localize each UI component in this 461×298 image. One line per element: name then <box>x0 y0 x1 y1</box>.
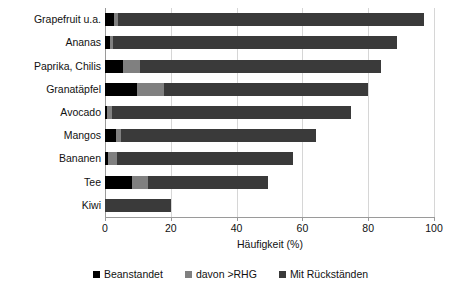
legend-label: Mit Rückständen <box>290 268 368 280</box>
y-axis-label: Mangos <box>1 129 101 142</box>
y-axis-label: Grapefruit u.a. <box>1 13 101 26</box>
x-axis-title: Häufigkeit (%) <box>105 238 435 250</box>
x-tickmark <box>171 217 172 221</box>
bar-segment <box>113 36 397 49</box>
bar-row <box>105 199 434 212</box>
y-axis-label: Bananen <box>1 152 101 165</box>
x-axis-line <box>105 217 435 218</box>
bar-segment <box>105 83 137 96</box>
bar-segment <box>105 176 132 189</box>
legend-item[interactable]: Beanstandet <box>93 268 163 280</box>
bar-row <box>105 176 434 189</box>
bar-row <box>105 152 434 165</box>
legend-swatch-icon <box>279 271 286 278</box>
x-tickmark <box>105 217 106 221</box>
bar-segment <box>112 106 351 119</box>
bar-segment <box>117 152 293 165</box>
x-tick-label: 0 <box>85 222 125 235</box>
x-tickmark <box>302 217 303 221</box>
y-axis-category-labels: Grapefruit u.a.AnanasPaprika, ChilisGran… <box>0 8 101 217</box>
bar-segment <box>164 83 368 96</box>
y-axis-label: Ananas <box>1 36 101 49</box>
y-axis-label: Paprika, Chilis <box>1 60 101 73</box>
bar-segment <box>132 176 148 189</box>
bar-segment <box>105 129 116 142</box>
legend-item[interactable]: davon >RHG <box>185 268 257 280</box>
bar-segment <box>118 13 424 26</box>
legend-label: Beanstandet <box>104 268 163 280</box>
chart-legend: Beanstandetdavon >RHGMit Rückständen <box>0 268 461 280</box>
bar-segment <box>105 13 114 26</box>
bar-row <box>105 83 434 96</box>
bar-segment <box>148 176 268 189</box>
bar-segment <box>105 60 123 73</box>
x-tick-label: 100 <box>414 222 454 235</box>
y-axis-label: Avocado <box>1 106 101 119</box>
bar-segment <box>105 199 171 212</box>
bar-segment <box>108 152 116 165</box>
y-axis-label: Tee <box>1 176 101 189</box>
x-tickmark <box>368 217 369 221</box>
bar-segment <box>137 83 164 96</box>
bar-series-layer <box>105 8 434 217</box>
y-axis-label: Granatäpfel <box>1 83 101 96</box>
legend-swatch-icon <box>93 271 100 278</box>
x-tick-label: 20 <box>151 222 191 235</box>
bar-row <box>105 106 434 119</box>
x-tick-label: 40 <box>217 222 257 235</box>
y-axis-label: Kiwi <box>1 199 101 212</box>
x-tick-label: 60 <box>282 222 322 235</box>
bar-chart: Grapefruit u.a.AnanasPaprika, ChilisGran… <box>0 0 461 298</box>
bar-segment <box>123 60 140 73</box>
legend-swatch-icon <box>185 271 192 278</box>
legend-label: davon >RHG <box>196 268 257 280</box>
x-tick-label: 80 <box>348 222 388 235</box>
gridline-x-100 <box>434 8 435 217</box>
bar-row <box>105 129 434 142</box>
bar-row <box>105 60 434 73</box>
x-tickmark <box>434 217 435 221</box>
legend-item[interactable]: Mit Rückständen <box>279 268 368 280</box>
bar-row <box>105 36 434 49</box>
x-tickmark <box>237 217 238 221</box>
bar-segment <box>140 60 381 73</box>
bar-row <box>105 13 434 26</box>
bar-segment <box>121 129 315 142</box>
